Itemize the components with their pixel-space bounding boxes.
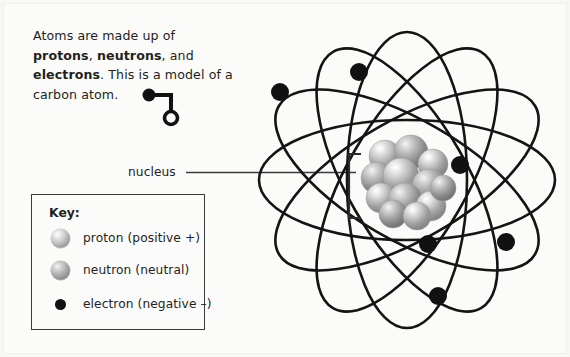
nucleus-proton-11: [403, 202, 431, 230]
key-label-proton: proton (positive +): [83, 231, 200, 245]
intro-text-c: , and: [162, 48, 194, 63]
illustration-page: Atoms are made up of protons, neutrons, …: [0, 0, 570, 357]
electron-dot-icon: [49, 299, 71, 310]
intro-text-b: ,: [89, 48, 97, 63]
electron-3: [451, 156, 469, 174]
electron-2: [350, 63, 368, 81]
callout-pointer-icon: [141, 88, 201, 128]
proton-sphere-icon: [49, 229, 71, 248]
key-legend-box: Key: proton (positive +) neutron (neutra…: [31, 194, 205, 330]
intro-text-a: Atoms are made up of: [33, 28, 175, 43]
intro-bold-electrons: electrons: [33, 67, 100, 82]
electron-4: [419, 235, 437, 253]
nucleus-label: nucleus: [128, 165, 176, 179]
nucleus-neutron-12: [430, 175, 456, 201]
key-title: Key:: [49, 205, 80, 220]
key-label-electron: electron (negative –): [83, 297, 212, 311]
nucleus-neutron-10: [379, 200, 407, 228]
intro-paragraph: Atoms are made up of protons, neutrons, …: [33, 26, 233, 104]
key-item-proton: proton (positive +): [49, 227, 200, 249]
nucleus-cluster: [361, 135, 456, 230]
key-item-neutron: neutron (neutral): [49, 259, 189, 281]
electron-5: [497, 233, 515, 251]
intro-bold-protons: protons: [33, 48, 89, 63]
pointer-filled-dot-icon: [143, 89, 156, 102]
pointer-open-circle-icon: [165, 112, 178, 125]
atom-diagram: [249, 8, 565, 352]
electron-1: [271, 83, 289, 101]
key-item-electron: electron (negative –): [49, 293, 212, 315]
intro-bold-neutrons: neutrons: [97, 48, 162, 63]
electron-6: [429, 287, 447, 305]
neutron-sphere-icon: [49, 261, 71, 280]
key-label-neutron: neutron (neutral): [83, 263, 189, 277]
